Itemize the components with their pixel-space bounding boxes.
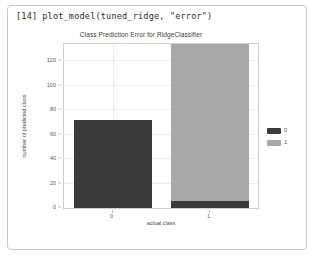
legend-swatch — [267, 128, 281, 134]
y-axis-ticks: 020406080100120 — [17, 43, 61, 209]
y-tick-mark — [58, 84, 61, 85]
notebook-cell: [14]plot_model(tuned_ridge, "error") Cla… — [7, 5, 307, 250]
y-tick-label: 40 — [50, 155, 56, 161]
bar-stack[interactable] — [74, 120, 152, 208]
y-tick-label: 20 — [50, 180, 56, 186]
y-tick-mark — [58, 133, 61, 134]
legend-swatch — [267, 140, 281, 146]
y-tick-label: 100 — [47, 82, 56, 88]
y-tick-mark — [58, 182, 61, 183]
cell-source-code: plot_model(tuned_ridge, "error") — [42, 11, 212, 21]
y-tick-mark — [58, 158, 61, 159]
chart-legend: 01 — [267, 126, 299, 150]
matplotlib-figure: Class Prediction Error for RidgeClassifi… — [17, 28, 299, 246]
bar-segment[interactable] — [171, 201, 249, 208]
y-tick-label: 0 — [53, 204, 56, 210]
y-tick-label: 120 — [47, 57, 56, 63]
legend-item[interactable]: 0 — [267, 126, 299, 136]
cell-prompt-label: [14] — [16, 11, 37, 21]
legend-label: 1 — [284, 140, 287, 146]
x-tick-label: 1 — [207, 213, 210, 219]
y-tick-mark — [58, 60, 61, 61]
legend-item[interactable]: 1 — [267, 138, 299, 148]
bar-segment[interactable] — [171, 43, 249, 201]
x-tick-mark — [112, 210, 113, 213]
y-tick-mark — [58, 207, 61, 208]
bar-segment[interactable] — [74, 120, 152, 208]
x-tick-label: 0 — [110, 213, 113, 219]
y-tick-label: 80 — [50, 106, 56, 112]
x-axis-label: actual class — [63, 220, 259, 226]
y-tick-mark — [58, 109, 61, 110]
chart-title: Class Prediction Error for RidgeClassifi… — [17, 31, 265, 38]
plot-area — [63, 43, 259, 209]
y-tick-label: 60 — [50, 131, 56, 137]
bar-stack[interactable] — [171, 43, 249, 208]
code-cell-line[interactable]: [14]plot_model(tuned_ridge, "error") — [16, 11, 212, 25]
x-tick-mark — [209, 210, 210, 213]
legend-label: 0 — [284, 128, 287, 134]
